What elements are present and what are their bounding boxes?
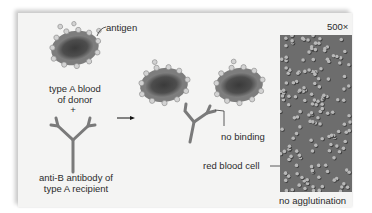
micrograph-cell [347, 84, 351, 88]
micrograph-cell [311, 185, 315, 189]
micrograph-cell [307, 68, 311, 72]
micrograph-cell [337, 130, 341, 134]
micrograph-cell [302, 38, 306, 42]
no-agglutination-label: no agglutination [279, 195, 346, 206]
micrograph-cell [314, 48, 318, 52]
micrograph-cell [317, 189, 321, 192]
micrograph-cell [311, 169, 315, 173]
micrograph-cell [316, 99, 320, 103]
micrograph-cell [291, 136, 295, 140]
micrograph-cell [295, 149, 299, 153]
micrograph-cell [305, 178, 309, 182]
micrograph-cell [342, 147, 346, 151]
antibody-label-line1: anti-B antibody of [30, 172, 122, 183]
micrograph-cell [297, 183, 301, 187]
recipient-red-blood-cell [135, 55, 193, 109]
micrograph-cell [312, 189, 316, 192]
micrograph-cell [317, 175, 321, 179]
micrograph-cell [330, 134, 334, 138]
micrograph-cell [317, 77, 321, 81]
micrograph-cell [322, 94, 326, 98]
plus-sign: + [68, 104, 78, 115]
micrograph-cell [295, 164, 299, 168]
micrograph-cell [326, 170, 330, 174]
micrograph-cell [316, 116, 320, 120]
micrograph-cell [313, 98, 317, 102]
unbound-antibody [185, 104, 215, 142]
micrograph-cell [332, 178, 336, 182]
micrograph-cell [284, 179, 288, 183]
micrograph-cell [290, 188, 294, 192]
micrograph-cell [314, 103, 318, 107]
micrograph-cell [332, 54, 336, 58]
micrograph-cell [303, 70, 307, 74]
micrograph-cell [285, 81, 289, 85]
micrograph-cell [321, 185, 325, 189]
micrograph-cell [338, 61, 342, 65]
micrograph-cell [324, 163, 328, 167]
micrograph-cell [328, 149, 332, 153]
micrograph-cell [310, 165, 314, 169]
micrograph-cell [288, 145, 292, 149]
micrograph-cell [298, 110, 302, 114]
micrograph-cell [309, 138, 313, 142]
micrograph-cell [340, 185, 344, 189]
micrograph-cell [347, 63, 351, 67]
micrograph-cell [339, 38, 343, 42]
micrograph-cell [320, 137, 324, 141]
micrograph-cell [310, 47, 314, 51]
micrograph-cell [335, 55, 339, 59]
micrograph-cell [281, 94, 285, 98]
micrograph-cell [339, 56, 343, 60]
micrograph-cell [313, 73, 317, 77]
magnification-label: 500× [327, 21, 348, 32]
micrograph-cell [317, 164, 321, 168]
micrograph-cell [311, 149, 315, 153]
micrograph-cell [320, 107, 324, 111]
micrograph-cell [307, 113, 311, 117]
micrograph-cell [287, 103, 291, 107]
micrograph-cell [335, 144, 339, 148]
micrograph-cell [343, 122, 347, 126]
micrograph-cell [303, 99, 307, 103]
micrograph-cell [327, 77, 331, 81]
micrograph-cell [339, 189, 343, 192]
micrograph-cell [287, 94, 291, 98]
micrograph-cell [317, 41, 321, 45]
micrograph-cell [313, 82, 317, 86]
micrograph-cell [314, 144, 318, 148]
micrograph-cell [319, 67, 323, 71]
no-binding-label: no binding [221, 131, 265, 142]
micrograph-cell [320, 102, 324, 106]
recipient-red-blood-cell [210, 55, 268, 109]
donor-red-blood-cell [44, 16, 107, 73]
micrograph-cell [284, 66, 288, 70]
micrograph-cell [347, 114, 351, 118]
micrograph-cell [284, 55, 288, 59]
micrograph-cell [295, 172, 299, 176]
micrograph-cell [312, 58, 316, 62]
micrograph-cell [298, 154, 302, 158]
red-blood-cell-label: red blood cell [203, 160, 260, 171]
micrograph-cell [347, 170, 351, 174]
micrograph-cell [342, 98, 346, 102]
no-binding-pointer [215, 110, 224, 126]
micrograph-cell [298, 89, 302, 93]
micrograph-cell [332, 156, 336, 160]
micrograph-cell [318, 37, 322, 41]
micrograph-cell [280, 57, 284, 61]
micrograph-image [280, 35, 352, 192]
micrograph-cell [285, 189, 289, 192]
micrograph-cell [300, 176, 304, 180]
micrograph-cell [347, 129, 351, 133]
micrograph-cell [287, 174, 291, 178]
micrograph-cell [310, 92, 314, 96]
micrograph-cell [296, 71, 300, 75]
micrograph-cell [318, 85, 322, 89]
micrograph-cell [348, 120, 352, 124]
micrograph-cell [323, 49, 327, 53]
micrograph-cell [298, 125, 302, 129]
micrograph-cell [326, 112, 330, 116]
micrograph-cell [301, 58, 305, 62]
micrograph-cell [342, 87, 346, 91]
